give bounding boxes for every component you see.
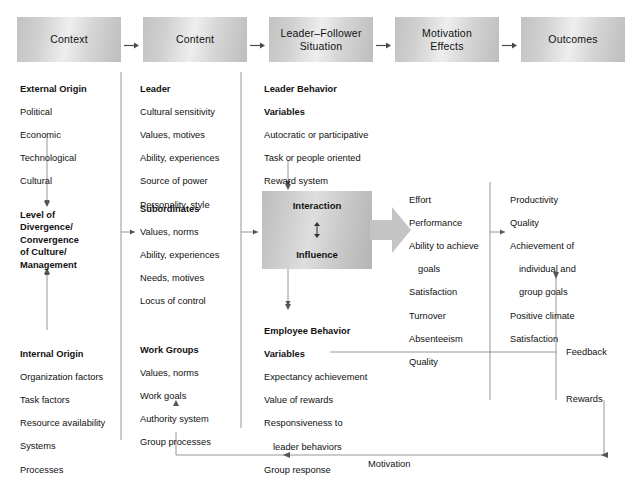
lbv-item: Reward system [264, 176, 394, 188]
lbv-heading-line1: Leader Behavior [264, 84, 394, 96]
header-box-leader-follower-situation[interactable]: Leader–Follower Situation [269, 17, 373, 62]
external-origin-heading: External Origin [20, 84, 120, 96]
leader-item: Source of power [140, 176, 245, 188]
motivation-label: Motivation [368, 459, 410, 471]
outcomes-item: Achievement of [510, 241, 615, 253]
header-box-motivation-effects[interactable]: Motivation Effects [395, 17, 499, 62]
header-box-context-label: Context [50, 33, 88, 46]
motivation-effects-item: Effort [409, 195, 499, 207]
lbv-item: Autocratic or participative [264, 130, 394, 142]
me-line1: Motivation [422, 27, 472, 40]
motivation-effects-item: Satisfaction [409, 287, 499, 299]
leader-item: Cultural sensitivity [140, 107, 245, 119]
internal-origin-item: Systems [20, 441, 125, 453]
lfs-line2: Situation [280, 40, 361, 53]
motivation-effects-item: goals [409, 264, 499, 276]
block-work-groups: Work Groups Values, norms Work goals Aut… [140, 333, 245, 461]
header-box-context[interactable]: Context [17, 17, 121, 62]
header-arrow-3-icon [376, 36, 392, 45]
lod-line: of Culture/ [20, 246, 115, 258]
block-subordinates: Subordinates Values, norms Ability, expe… [140, 192, 245, 320]
header-box-outcomes-label: Outcomes [548, 33, 597, 46]
motivation-effects-item: Turnover [409, 311, 499, 323]
subordinates-item: Ability, experiences [140, 250, 245, 262]
interaction-label: Interaction [293, 200, 342, 211]
ebv-item: Expectancy achievement [264, 372, 394, 384]
lod-line: Level of [20, 209, 115, 221]
ebv-item: leader behaviors [264, 442, 394, 454]
work-groups-item: Group processes [140, 437, 245, 449]
motivation-effects-item: Performance [409, 218, 499, 230]
motivation-effects-item: Quality [409, 357, 499, 369]
header-arrow-1-icon [124, 36, 140, 45]
header-box-leader-follower-situation-label: Leader–Follower Situation [280, 27, 361, 53]
motivation-effects-item: Absenteeism [409, 334, 499, 346]
leader-item: Ability, experiences [140, 153, 245, 165]
ebv-item: Value of rewards [264, 395, 394, 407]
leader-item: Values, motives [140, 130, 245, 142]
lod-line: Divergence/ [20, 221, 115, 233]
header-box-motivation-effects-label: Motivation Effects [422, 27, 472, 53]
block-motivation-effects: Effort Performance Ability to achieve go… [409, 183, 499, 380]
ebv-item: Responsiveness to [264, 418, 394, 430]
rewards-label: Rewards [566, 394, 603, 406]
subordinates-item: Values, norms [140, 227, 245, 239]
outcomes-item: group goals [510, 287, 615, 299]
header-arrow-4-icon [502, 36, 518, 45]
ebv-heading-line1: Employee Behavior [264, 326, 394, 338]
external-origin-item: Technological [20, 153, 120, 165]
lbv-item: Task or people oriented [264, 153, 394, 165]
leader-heading: Leader [140, 84, 245, 96]
feedback-label: Feedback [566, 347, 607, 359]
subordinates-item: Locus of control [140, 296, 245, 308]
work-groups-item: Values, norms [140, 368, 245, 380]
outcome-flow-arrow-icon [370, 205, 412, 259]
block-level-of-divergence: Level of Divergence/ Convergence of Cult… [20, 209, 115, 271]
leadership-model-diagram: Context Content Leader–Follower Situatio… [0, 0, 627, 486]
internal-origin-item: Organization factors [20, 372, 125, 384]
external-origin-item: Cultural [20, 176, 120, 188]
me-line2: Effects [422, 40, 472, 53]
outcomes-item: Productivity [510, 195, 615, 207]
outcomes-item: individual and [510, 264, 615, 276]
outcomes-item: Quality [510, 218, 615, 230]
outcomes-item: Positive climate [510, 311, 615, 323]
block-outcomes: Productivity Quality Achievement of indi… [510, 183, 615, 357]
header-box-content-label: Content [176, 33, 214, 46]
subordinates-item: Needs, motives [140, 273, 245, 285]
internal-origin-item: Resource availability [20, 418, 125, 430]
internal-origin-heading: Internal Origin [20, 349, 125, 361]
influence-label: Influence [296, 249, 338, 260]
work-groups-heading: Work Groups [140, 345, 245, 357]
external-origin-item: Economic [20, 130, 120, 142]
subordinates-heading: Subordinates [140, 204, 245, 216]
header-box-outcomes[interactable]: Outcomes [521, 17, 625, 62]
work-groups-item: Work goals [140, 391, 245, 403]
block-internal-origin: Internal Origin Organization factors Tas… [20, 337, 125, 486]
internal-origin-item: Task factors [20, 395, 125, 407]
motivation-effects-item: Ability to achieve [409, 241, 499, 253]
work-groups-item: Authority system [140, 414, 245, 426]
external-origin-item: Political [20, 107, 120, 119]
internal-origin-item: Processes [20, 465, 125, 477]
header-box-content[interactable]: Content [143, 17, 247, 62]
block-external-origin: External Origin Political Economic Techn… [20, 72, 120, 200]
outcomes-item: Satisfaction [510, 334, 615, 346]
interaction-influence-box[interactable]: Interaction Influence [262, 191, 372, 269]
lod-line: Management [20, 259, 115, 271]
lfs-line1: Leader–Follower [280, 27, 361, 40]
ebv-heading-line2: Variables [264, 349, 394, 361]
interaction-influence-double-arrow-icon [312, 222, 322, 238]
lbv-heading-line2: Variables [264, 107, 394, 119]
lod-line: Convergence [20, 234, 115, 246]
header-arrow-2-icon [250, 36, 266, 45]
